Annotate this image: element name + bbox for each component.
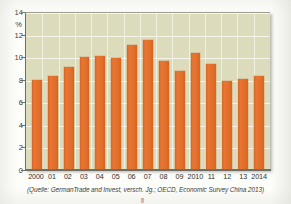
y-axis-tick-mark — [21, 170, 25, 171]
x-axis-tick-label: 02 — [60, 172, 76, 184]
y-axis-tick-mark — [21, 125, 25, 126]
y-axis-tick-mark — [21, 102, 25, 103]
x-axis-tick-label: 06 — [124, 172, 140, 184]
x-axis-tick-label: 2014 — [251, 172, 267, 184]
y-axis-tick-label: 6 — [1, 98, 23, 107]
bar-slot — [188, 13, 204, 170]
bar-slot — [77, 13, 93, 170]
y-axis-tick-mark — [21, 80, 25, 81]
y-axis-tick-label: 2 — [1, 143, 23, 152]
y-axis-tick-label: 8 — [1, 76, 23, 85]
y-axis-tick-label: 14 — [1, 8, 23, 17]
y-axis-tick-mark — [21, 35, 25, 36]
bar — [159, 61, 169, 171]
x-axis-tick-label: 07 — [140, 172, 156, 184]
bar — [127, 45, 137, 170]
bar — [64, 67, 74, 170]
bar — [48, 76, 58, 170]
x-axis-tick-label: 13 — [235, 172, 251, 184]
x-axis-tick-label: 04 — [92, 172, 108, 184]
bar-slot — [172, 13, 188, 170]
x-axis-tick-label: 09 — [171, 172, 187, 184]
y-axis-tick-label: 4 — [1, 121, 23, 130]
bar-slot — [235, 13, 251, 170]
y-axis-tick-label: 12 — [1, 31, 23, 40]
x-axis-tick-label: 2010 — [187, 172, 203, 184]
bar — [222, 81, 232, 170]
y-axis-tick-label: 0 — [1, 166, 23, 175]
bar — [143, 40, 153, 170]
bar — [95, 56, 105, 170]
bar — [32, 80, 42, 170]
bar-slot — [92, 13, 108, 170]
plot-area — [25, 12, 270, 170]
y-axis-tick-mark — [21, 12, 25, 13]
y-axis-tick-label: 10 — [1, 53, 23, 62]
x-axis-tick-labels: 200001020304050607080920101112132014 — [25, 172, 270, 184]
bar — [80, 57, 90, 170]
bar-slot — [124, 13, 140, 170]
y-axis-tick-mark — [21, 57, 25, 58]
bar-slot — [251, 13, 267, 170]
bar-slot — [108, 13, 124, 170]
x-axis-tick-label: 2000 — [28, 172, 44, 184]
x-axis-tick-label: 03 — [76, 172, 92, 184]
bar-slot — [29, 13, 45, 170]
bar — [175, 71, 185, 170]
bar — [191, 53, 201, 170]
bar-slot — [219, 13, 235, 170]
binding-mark-icon — [141, 198, 144, 203]
bar — [111, 58, 121, 170]
bar-series — [26, 13, 270, 170]
bar-slot — [45, 13, 61, 170]
x-axis-tick-label: 05 — [108, 172, 124, 184]
bar — [238, 79, 248, 170]
x-axis-tick-label: 01 — [44, 172, 60, 184]
x-axis-tick-label: 12 — [219, 172, 235, 184]
bar-slot — [61, 13, 77, 170]
y-axis-tick-mark — [21, 147, 25, 148]
bar — [206, 64, 216, 170]
chart-figure: % 02468101214 20000102030405060708092010… — [0, 0, 291, 204]
bar-slot — [156, 13, 172, 170]
y-axis-unit-label: % — [0, 20, 22, 29]
x-axis-tick-label: 08 — [156, 172, 172, 184]
bar — [254, 76, 264, 170]
x-axis-tick-label: 11 — [203, 172, 219, 184]
x-axis-line — [25, 169, 271, 171]
bar-slot — [203, 13, 219, 170]
source-caption: (Quelle: GermanTrade and Invest, versch.… — [0, 186, 291, 193]
bar-slot — [140, 13, 156, 170]
